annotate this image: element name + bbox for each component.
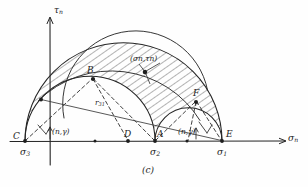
angle-label-right: (n,γ) <box>178 128 196 136</box>
principal-stress-sigma3: σ3 <box>20 148 30 157</box>
node-dot-E <box>220 139 224 143</box>
node-dot-stress-point <box>143 70 148 75</box>
node-dot-B <box>91 77 95 81</box>
point-label-B: B <box>87 66 94 75</box>
point-label-D: D <box>124 130 131 139</box>
mohr-circle-figure: σn τn C D A E B F σ3 σ2 σ1 r31 (σn,τn) (… <box>0 0 308 187</box>
point-label-E: E <box>226 130 233 139</box>
node-dot-F <box>194 100 198 104</box>
node-dot-D <box>126 139 130 143</box>
node-dot-C <box>23 139 27 143</box>
radius-label-r31: r31 <box>95 99 105 107</box>
point-label-A: A <box>157 130 164 139</box>
tick-dot-mid-right <box>186 140 189 143</box>
point-label-F: F <box>193 89 199 98</box>
node-dot-A <box>153 139 157 143</box>
y-axis-label: τn <box>54 6 63 15</box>
stress-point-label: (σn,τn) <box>130 55 157 63</box>
tick-dot-mid-left <box>94 140 97 143</box>
mohr-diagram-canvas <box>0 0 308 187</box>
x-axis-label: σn <box>288 134 298 143</box>
principal-stress-sigma2: σ2 <box>150 148 160 157</box>
node-dot-left-chord <box>39 98 43 102</box>
principal-stress-sigma1: σ1 <box>217 148 227 157</box>
angle-label-left: (n,γ) <box>52 128 70 136</box>
normal-stress-axis <box>10 141 285 142</box>
figure-caption: (c) <box>142 166 154 175</box>
point-label-C: C <box>13 132 20 141</box>
